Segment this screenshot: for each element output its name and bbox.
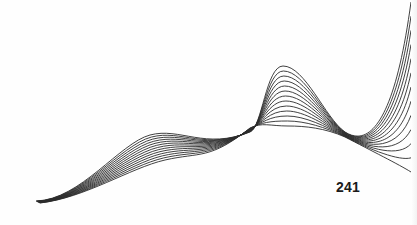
page-number: 241 [336,179,360,195]
book-page: 241 [0,0,417,225]
wave-line [37,45,411,202]
page-edge-shadow [411,0,417,225]
wave-line [36,2,411,201]
wave-line [36,16,411,201]
